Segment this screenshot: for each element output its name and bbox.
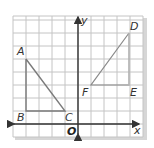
vertex-label-f: F <box>82 86 89 99</box>
coordinate-grid-diagram: x y O A B C D E F <box>0 0 154 148</box>
y-axis-label: y <box>80 14 88 27</box>
vertex-label-b: B <box>17 111 25 124</box>
x-axis-label: x <box>133 124 141 137</box>
vertex-label-c: C <box>65 111 73 124</box>
vertex-label-a: A <box>16 45 25 58</box>
vertex-label-e: E <box>130 86 137 99</box>
origin-label: O <box>67 125 76 138</box>
vertex-label-d: D <box>130 20 138 33</box>
